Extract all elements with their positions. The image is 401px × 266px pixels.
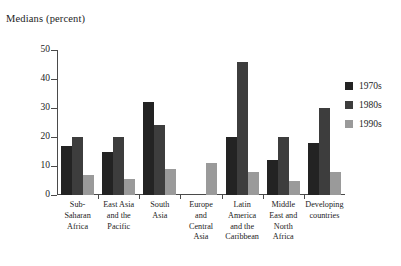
bar: [165, 169, 176, 195]
bar: [154, 125, 165, 195]
x-axis-category-label-line: Central: [180, 222, 221, 233]
x-axis-group-separator: [98, 195, 99, 199]
chart-title: Medians (percent): [6, 13, 85, 24]
x-axis-category-label-line: and the: [222, 222, 263, 233]
bar: [83, 175, 94, 195]
chart-container: Medians (percent) 01020304050 Sub-Sahara…: [0, 0, 401, 266]
bar: [206, 163, 217, 195]
x-axis-category-label: EuropeandCentralAsia: [180, 200, 221, 243]
x-axis-category-label: Sub-SaharanAfrica: [57, 200, 98, 232]
bar: [319, 108, 330, 195]
bar: [289, 181, 300, 196]
x-axis-category-label-line: Caribbean: [222, 232, 263, 243]
legend-item[interactable]: 1970s: [345, 78, 382, 93]
x-axis-category-label-line: America: [222, 211, 263, 222]
x-axis-category-label-line: East and: [263, 211, 304, 222]
bar: [248, 172, 259, 195]
bar: [102, 152, 113, 196]
bar-group-bars: [57, 50, 98, 195]
y-axis-tick-label: 40: [20, 74, 50, 84]
bar-group: [263, 50, 304, 195]
bar-group-bars: [304, 50, 345, 195]
legend-item[interactable]: 1990s: [345, 116, 382, 131]
bar-group-bars: [139, 50, 180, 195]
plot-area: [57, 50, 345, 195]
x-axis-category-label-line: Pacific: [98, 222, 139, 233]
x-axis-category-label-line: countries: [304, 211, 345, 222]
y-axis-tick-label: 10: [20, 161, 50, 171]
bar: [308, 143, 319, 195]
y-axis-labels: 01020304050: [20, 50, 50, 195]
x-axis-category-label-line: Africa: [263, 232, 304, 243]
x-axis-category-label-line: Europe: [180, 200, 221, 211]
x-axis-category-label-line: Asia: [139, 211, 180, 222]
x-axis-category-label: SouthAsia: [139, 200, 180, 222]
bar-group: [304, 50, 345, 195]
legend-item[interactable]: 1980s: [345, 97, 382, 112]
x-axis-category-label: MiddleEast andNorthAfrica: [263, 200, 304, 243]
x-axis-category-label-line: East Asia: [98, 200, 139, 211]
bar-group: [57, 50, 98, 195]
x-axis-category-label: LatinAmericaand theCaribbean: [222, 200, 263, 243]
x-axis-group-separator: [263, 195, 264, 199]
x-axis-category-label-line: Africa: [57, 222, 98, 233]
x-axis-group-separator: [222, 195, 223, 199]
bar-group-bars: [222, 50, 263, 195]
x-axis-category-label-line: Middle: [263, 200, 304, 211]
bar: [226, 137, 237, 195]
y-axis-tick-label: 0: [20, 190, 50, 200]
legend-swatch-icon: [345, 120, 353, 128]
legend-item-label: 1970s: [359, 81, 382, 91]
bar-group: [98, 50, 139, 195]
x-axis-category-label-line: and: [180, 211, 221, 222]
chart-legend: 1970s1980s1990s: [345, 78, 382, 135]
bar: [278, 137, 289, 195]
x-axis-category-label-line: Developing: [304, 200, 345, 211]
bar-group: [222, 50, 263, 195]
legend-item-label: 1980s: [359, 100, 382, 110]
bar: [124, 179, 135, 195]
y-axis-tick-label: 20: [20, 132, 50, 142]
bar: [267, 160, 278, 195]
legend-swatch-icon: [345, 82, 353, 90]
x-axis-category-label-line: Saharan: [57, 211, 98, 222]
bar: [72, 137, 83, 195]
x-axis-category-labels: Sub-SaharanAfricaEast Asiaand thePacific…: [57, 200, 345, 262]
bar: [143, 102, 154, 195]
bar-group: [139, 50, 180, 195]
bar-group: [180, 50, 221, 195]
bar: [237, 62, 248, 195]
x-axis-group-separator: [180, 195, 181, 199]
y-axis-tick: [51, 195, 57, 196]
x-axis-category-label-line: North: [263, 222, 304, 233]
x-axis-group-separator: [139, 195, 140, 199]
x-axis-category-label-line: Asia: [180, 232, 221, 243]
bar: [61, 146, 72, 195]
bar-group-bars: [98, 50, 139, 195]
x-axis-category-label-line: and the: [98, 211, 139, 222]
bar-group-bars: [263, 50, 304, 195]
y-axis-tick-label: 50: [20, 45, 50, 55]
x-axis-category-label-line: South: [139, 200, 180, 211]
x-axis-category-label-line: Latin: [222, 200, 263, 211]
legend-swatch-icon: [345, 101, 353, 109]
x-axis-group-separator: [304, 195, 305, 199]
bar: [330, 172, 341, 195]
y-axis-tick-label: 30: [20, 103, 50, 113]
x-axis-category-label: Developingcountries: [304, 200, 345, 222]
legend-item-label: 1990s: [359, 119, 382, 129]
bar: [113, 137, 124, 195]
x-axis-category-label-line: Sub-: [57, 200, 98, 211]
bar-group-bars: [180, 50, 221, 195]
x-axis-category-label: East Asiaand thePacific: [98, 200, 139, 232]
